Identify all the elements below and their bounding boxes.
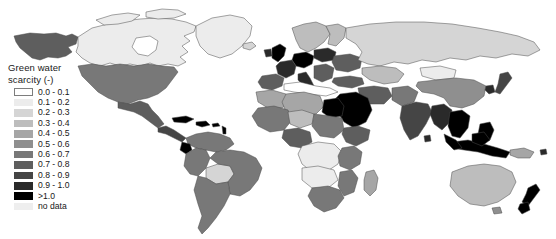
legend-swatch [14,192,33,200]
legend-row: 0.4 - 0.5 [8,129,118,139]
legend-swatch [14,109,33,117]
legend-label: 0.6 - 0.7 [38,150,70,159]
legend-entries: 0.0 - 0.10.1 - 0.20.2 - 0.30.3 - 0.40.4 … [8,87,118,212]
legend-swatch [14,172,33,180]
legend-swatch [14,182,33,190]
legend-row: 0.7 - 0.8 [8,160,118,170]
legend-title-line2: scarcity (-) [8,74,118,86]
region-sri-lanka [424,135,431,142]
legend-label: >1.0 [38,192,55,201]
legend-row: 0.1 - 0.2 [8,97,118,107]
region-tasmania [492,207,502,214]
legend-label: 0.9 - 1.0 [38,181,70,190]
legend-swatch [14,99,33,107]
legend-label: 0.4 - 0.5 [38,129,70,138]
legend-row: >1.0 [8,191,118,201]
legend-swatch [14,88,33,96]
legend-label: 0.2 - 0.3 [38,108,70,117]
legend-row: 0.8 - 0.9 [8,170,118,180]
legend-label: 0.3 - 0.4 [38,119,70,128]
legend-row: 0.3 - 0.4 [8,118,118,128]
legend-label: 0.5 - 0.6 [38,140,70,149]
legend-swatch [14,140,33,148]
legend-row: 0.0 - 0.1 [8,87,118,97]
legend-label: 0.0 - 0.1 [38,88,70,97]
legend-swatch [14,130,33,138]
legend-row: no data [8,201,118,211]
legend-row: 0.9 - 1.0 [8,181,118,191]
legend-label: 0.8 - 0.9 [38,171,70,180]
legend-swatch [14,161,33,169]
figure-root: Green water scarcity (-) 0.0 - 0.10.1 - … [0,0,556,239]
region-pacific-islands [540,149,547,155]
legend-row: 0.6 - 0.7 [8,149,118,159]
legend-title-line1: Green water [8,62,118,74]
legend-row: 0.2 - 0.3 [8,108,118,118]
legend-row: 0.5 - 0.6 [8,139,118,149]
legend-title: Green water scarcity (-) [8,62,118,85]
legend-swatch [14,120,33,128]
legend-label: 0.7 - 0.8 [38,160,70,169]
legend-label: 0.1 - 0.2 [38,98,70,107]
legend-swatch [14,151,33,159]
legend-swatch [14,203,33,211]
legend: Green water scarcity (-) 0.0 - 0.10.1 - … [8,62,118,212]
legend-label: no data [38,202,67,211]
